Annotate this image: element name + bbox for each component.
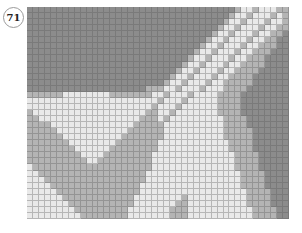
- puzzle-number: 71: [7, 12, 21, 23]
- mosaic-grid: [27, 7, 289, 219]
- puzzle-number-badge: 71: [3, 7, 24, 28]
- mosaic-cell: [283, 213, 289, 219]
